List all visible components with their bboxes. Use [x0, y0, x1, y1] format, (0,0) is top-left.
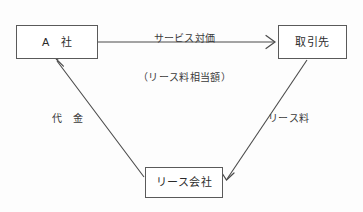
edge-label-lease-fee: リース料 — [268, 112, 328, 125]
edge-label-service-consideration-line1: サービス対価 — [122, 32, 247, 45]
node-lease-company-label: リース会社 — [156, 177, 213, 188]
edge-label-payment: 代 金 — [52, 112, 104, 125]
node-customer-label: 取引先 — [295, 37, 330, 48]
node-company-a[interactable]: A 社 — [16, 25, 98, 59]
node-company-a-label: A 社 — [42, 37, 72, 48]
edge-label-service-consideration-line2: （リース料相当額） — [122, 71, 247, 84]
node-lease-company[interactable]: リース会社 — [145, 167, 223, 198]
diagram-canvas: A 社 取引先 リース会社 サービス対価 （リース料相当額） 代 金 リース料 — [0, 0, 363, 212]
edge-label-service-consideration: サービス対価 （リース料相当額） — [122, 6, 247, 110]
node-customer[interactable]: 取引先 — [278, 25, 347, 59]
